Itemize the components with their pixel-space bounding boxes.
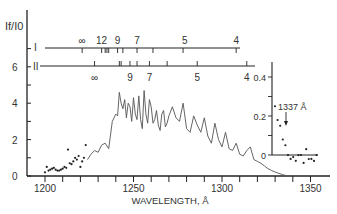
arrow-head-icon [284,121,288,126]
band-label: 7 [147,72,153,83]
series-I-label: I [34,42,37,53]
band-label: 5 [194,72,200,83]
series-II-label: II [33,61,39,72]
y-tick-label: 0 [12,171,18,182]
x-tick-label: 1300 [211,183,234,194]
inset-y-tick-label: 0.4 [253,73,266,83]
band-label: 4 [244,72,250,83]
x-tick-label: 1200 [34,183,57,194]
spectrum-chart: 0246 1200125013001350 If/I0 WAVELENGTH, … [0,0,337,214]
x-ticks: 1200125013001350 [34,176,322,194]
band-series: ∞129754∞9754 [40,35,255,83]
y-tick-label: 6 [12,62,18,73]
y-axis-label: If/I0 [5,20,23,32]
y-tick-label: 4 [12,98,18,109]
inset-y-tick-label: 0.2 [253,112,266,122]
inset-plot: 00.20.4 1337 Å [253,62,318,164]
x-axis-label: WAVELENGTH, Å [131,195,209,206]
y-tick-label: 2 [12,135,18,146]
band-label: 9 [127,72,133,83]
band-label: 9 [115,35,121,46]
spectrum-points [44,144,87,174]
spectrum-line [88,91,288,177]
x-tick-label: 1250 [122,183,145,194]
x-tick-label: 1350 [299,183,322,194]
inset-annotation: 1337 Å [278,102,307,112]
band-label: 7 [134,35,140,46]
band-label: 12 [96,35,108,46]
y-ticks: 0246 [12,49,31,182]
inset-y-tick-label: 0 [261,151,266,161]
band-label: 4 [233,35,239,46]
band-label: 5 [182,35,188,46]
band-label: ∞ [79,35,86,46]
band-label: ∞ [91,72,98,83]
